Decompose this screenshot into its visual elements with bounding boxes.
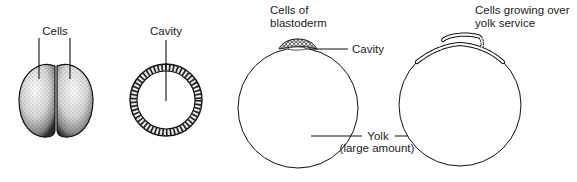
growing-cells-label-line1: Cells growing over xyxy=(475,4,570,16)
yolk-label: Yolk xyxy=(367,130,389,142)
growing-egg: Cells growing over yolk service xyxy=(399,4,570,166)
blastoderm-cavity xyxy=(288,47,306,50)
cells-label: Cells xyxy=(42,25,68,37)
embryo-development-diagram: Cells Cavity Cavity Cells of blastoderm … xyxy=(0,0,577,182)
cavity-label: Cavity xyxy=(150,25,182,37)
blastula: Cavity xyxy=(130,25,202,136)
yolk-note-label: (large amount) xyxy=(340,142,415,154)
blastoderm-cells-label-line1: Cells of xyxy=(270,4,309,16)
right-cell xyxy=(57,64,93,137)
blastoderm-cavity-label: Cavity xyxy=(352,43,384,55)
growing-cells-label-line2: yolk service xyxy=(475,17,535,29)
left-cell xyxy=(19,64,55,137)
two-cell-stage: Cells xyxy=(19,25,93,137)
blastoderm-cells-label-line2: blastoderm xyxy=(270,17,327,29)
